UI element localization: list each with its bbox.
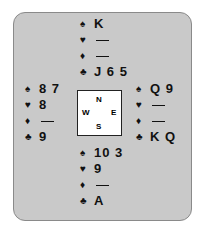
club-icon: ♣: [25, 129, 39, 145]
north-spades: K: [94, 16, 104, 32]
club-icon: ♣: [80, 193, 94, 209]
west-hearts: 8: [39, 97, 47, 113]
south-hand: ♠10 3 ♥9 ♦ ♣A: [80, 145, 123, 209]
heart-icon: ♥: [136, 97, 150, 113]
north-diamonds-void: [96, 56, 109, 57]
south-spades: 10 3: [94, 145, 123, 161]
compass-west: W: [82, 108, 90, 117]
west-diamonds-void: [41, 121, 54, 122]
spade-icon: ♠: [80, 16, 94, 32]
east-clubs: K Q: [150, 129, 176, 145]
diamond-icon: ♦: [25, 113, 39, 129]
compass-north: N: [96, 95, 102, 104]
diamond-icon: ♦: [136, 113, 150, 129]
diamond-icon: ♦: [80, 177, 94, 193]
south-hearts: 9: [94, 161, 102, 177]
spade-icon: ♠: [80, 145, 94, 161]
north-hearts-void: [96, 40, 109, 41]
south-diamonds-void: [96, 185, 109, 186]
east-diamonds-void: [152, 121, 165, 122]
east-hand: ♠Q 9 ♥ ♦ ♣K Q: [136, 81, 176, 145]
diamond-icon: ♦: [80, 48, 94, 64]
club-icon: ♣: [80, 64, 94, 80]
north-hand: ♠K ♥ ♦ ♣J 6 5: [80, 16, 128, 80]
west-hand: ♠8 7 ♥8 ♦ ♣9: [25, 81, 60, 145]
east-spades: Q 9: [150, 81, 174, 97]
south-clubs: A: [94, 193, 104, 209]
north-clubs: J 6 5: [94, 64, 128, 80]
east-hearts-void: [152, 105, 165, 106]
heart-icon: ♥: [25, 97, 39, 113]
heart-icon: ♥: [80, 161, 94, 177]
west-spades: 8 7: [39, 81, 60, 97]
compass-south: S: [96, 122, 101, 131]
club-icon: ♣: [136, 129, 150, 145]
spade-icon: ♠: [25, 81, 39, 97]
heart-icon: ♥: [80, 32, 94, 48]
compass-box: N W E S: [77, 90, 122, 136]
spade-icon: ♠: [136, 81, 150, 97]
compass-east: E: [111, 108, 116, 117]
west-clubs: 9: [39, 129, 47, 145]
